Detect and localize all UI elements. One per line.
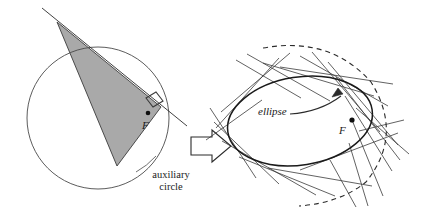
auxiliary-circle-label: auxiliary circle	[139, 169, 203, 193]
tangent-line-family	[206, 52, 409, 207]
auxiliary-circle-label-line1: auxiliary	[139, 169, 203, 181]
focus-point-left	[146, 111, 151, 116]
figure-container: auxiliary circle ellipse F F	[0, 0, 427, 213]
ellipse-callout-arrow	[290, 88, 343, 114]
tangent-line	[280, 67, 393, 84]
shaded-triangle	[57, 22, 161, 166]
tangent-line	[247, 54, 330, 101]
focus-label-left: F	[142, 119, 149, 131]
tangent-line	[263, 63, 374, 96]
diagram-canvas	[0, 0, 427, 213]
transition-arrow-icon	[191, 130, 231, 162]
tangent-line	[330, 160, 356, 207]
tangent-line	[268, 168, 372, 186]
tangent-line	[239, 157, 335, 196]
focus-label-right: F	[339, 124, 346, 136]
ellipse-envelope-panel	[206, 46, 409, 207]
auxiliary-circle-label-line2: circle	[139, 181, 203, 193]
focus-point-right	[349, 117, 354, 122]
tangent-line	[214, 122, 279, 184]
tangent-line	[216, 58, 279, 128]
tangent-line	[206, 100, 262, 140]
tangent-line	[356, 108, 409, 154]
tangent-line	[221, 53, 290, 112]
ellipse-label: ellipse	[258, 105, 287, 117]
tangent-line	[359, 120, 404, 131]
auxiliary-circle-panel	[27, 8, 187, 189]
